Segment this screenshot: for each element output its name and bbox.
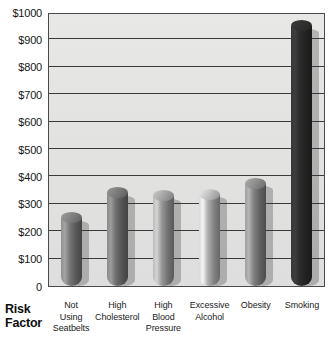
x-axis-label-line: Smoking xyxy=(276,300,328,312)
bar[interactable] xyxy=(199,188,229,286)
x-axis-label-line: Not xyxy=(45,300,97,312)
x-axis: Risk Factor NotUsingSeatbeltsHighCholest… xyxy=(0,300,330,349)
x-axis-label: HighBloodPressure xyxy=(137,300,189,335)
x-axis-label-line: Cholesterol xyxy=(91,312,143,324)
bar-body xyxy=(245,183,266,286)
x-axis-label: NotUsingSeatbelts xyxy=(45,300,97,335)
y-tick-label: $300 xyxy=(0,199,42,210)
y-tick-label: $700 xyxy=(0,90,42,101)
bar-body xyxy=(61,218,82,287)
x-axis-label-line: Pressure xyxy=(137,323,189,335)
y-tick-label: $1000 xyxy=(0,8,42,19)
bar[interactable] xyxy=(291,20,321,286)
x-axis-label: Smoking xyxy=(276,300,328,312)
bar-body xyxy=(291,26,312,286)
x-axis-label-line: Seatbelts xyxy=(45,323,97,335)
bar-top-cap xyxy=(245,178,266,189)
bar[interactable] xyxy=(153,190,183,286)
bar-top-cap xyxy=(61,212,82,223)
y-tick-label: 0 xyxy=(0,282,42,293)
y-tick-label: $200 xyxy=(0,227,42,238)
x-axis-label-line: High xyxy=(91,300,143,312)
x-axis-label: ExcessiveAlcohol xyxy=(184,300,236,323)
bar-top-cap xyxy=(199,189,220,200)
bar-chart: 0$100$200$300$400$500$600$700$800$900$10… xyxy=(0,0,330,349)
plot-area xyxy=(48,13,325,287)
x-axis-label-line: Excessive xyxy=(184,300,236,312)
bar-body xyxy=(199,194,220,286)
y-tick-label: $400 xyxy=(0,172,42,183)
x-axis-label-line: High xyxy=(137,300,189,312)
x-axis-label-line: Alcohol xyxy=(184,312,236,324)
x-axis-label: HighCholesterol xyxy=(91,300,143,323)
y-tick-label: $900 xyxy=(0,35,42,46)
bar[interactable] xyxy=(107,187,137,286)
bar-top-cap xyxy=(153,190,174,201)
bars-layer xyxy=(49,14,324,286)
x-axis-label: Obesity xyxy=(230,300,282,312)
bar[interactable] xyxy=(245,177,275,286)
bar-body xyxy=(153,196,174,286)
y-tick-label: $500 xyxy=(0,145,42,156)
x-axis-label-line: Blood xyxy=(137,312,189,324)
y-tick-label: $600 xyxy=(0,117,42,128)
y-tick-label: $100 xyxy=(0,254,42,265)
y-axis: 0$100$200$300$400$500$600$700$800$900$10… xyxy=(0,0,45,295)
bar-body xyxy=(107,193,128,286)
bar[interactable] xyxy=(61,212,91,287)
x-axis-label-line: Obesity xyxy=(230,300,282,312)
x-axis-label-line: Using xyxy=(45,312,97,324)
y-tick-label: $800 xyxy=(0,62,42,73)
